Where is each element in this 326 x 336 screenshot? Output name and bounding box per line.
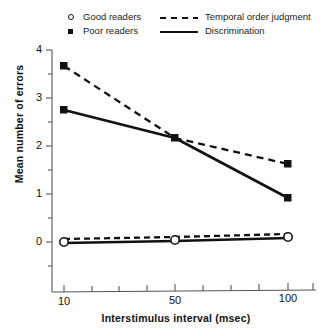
y-tick-label: 3 bbox=[26, 91, 42, 103]
data-point-marker bbox=[60, 62, 68, 70]
y-tick-label: 4 bbox=[26, 43, 42, 55]
x-axis bbox=[52, 283, 316, 292]
data-point-marker bbox=[60, 106, 68, 114]
data-point-marker bbox=[284, 160, 292, 168]
x-tick-label: 10 bbox=[47, 295, 81, 307]
data-point-marker bbox=[60, 238, 68, 246]
data-point-marker bbox=[284, 194, 292, 202]
plot-canvas bbox=[0, 0, 326, 336]
y-tick-label: 2 bbox=[26, 139, 42, 151]
series-poor-readers-temporal-order-judgment bbox=[60, 62, 292, 168]
chart-figure: Good readers Temporal order judgment Poo… bbox=[0, 0, 326, 336]
y-axis-title: Mean number of errors bbox=[13, 59, 25, 189]
x-tick-label: 50 bbox=[158, 294, 192, 306]
data-point-marker bbox=[284, 233, 292, 241]
y-tick-label: 1 bbox=[26, 187, 42, 199]
data-point-marker bbox=[171, 236, 179, 244]
plot-area: 4 3 2 1 0 10 50 100 Mean number of error… bbox=[0, 0, 326, 336]
x-axis-title: Interstimulus interval (msec) bbox=[46, 312, 306, 324]
series-poor-readers-discrimination bbox=[60, 106, 292, 202]
y-axis bbox=[46, 50, 52, 292]
y-tick-label: 0 bbox=[26, 235, 42, 247]
x-tick-label: 100 bbox=[271, 292, 305, 304]
